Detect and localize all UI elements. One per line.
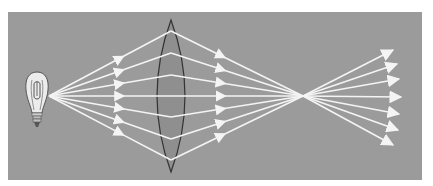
lens-diagram xyxy=(0,0,433,186)
light-ray-segment xyxy=(303,96,401,97)
